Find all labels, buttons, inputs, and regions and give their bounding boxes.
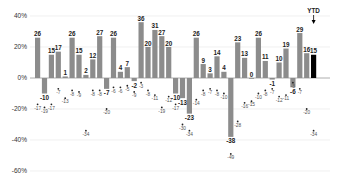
drop-value-label: -17	[48, 106, 55, 111]
bar	[97, 36, 102, 78]
bar	[152, 30, 157, 78]
bar	[304, 53, 309, 78]
bar-value-label: 10	[276, 55, 284, 62]
bar	[214, 56, 219, 78]
bar-value-label: -13	[178, 99, 188, 106]
drop-value-label: -8	[201, 92, 206, 97]
bar-value-label: -1	[269, 80, 275, 87]
bar-value-label: 1	[63, 69, 67, 76]
drop-value-label: -8	[146, 92, 151, 97]
bar	[35, 38, 40, 78]
bar-value-label: 26	[255, 30, 263, 37]
bar-value-label: -10	[40, 94, 50, 101]
drop-value-label: -10	[220, 95, 227, 100]
y-tick-label: 20%	[14, 43, 27, 50]
drop-value-label: -11	[152, 96, 159, 101]
bar	[145, 47, 150, 78]
bar	[194, 38, 199, 78]
bar-value-label: 14	[213, 49, 221, 56]
y-tick-label: -20%	[12, 105, 27, 112]
drop-value-label: -8	[91, 92, 96, 97]
bar-value-label: -7	[104, 89, 110, 96]
ytd-annotation-label: YTD	[307, 7, 320, 14]
bar	[208, 73, 213, 78]
bar	[83, 75, 88, 78]
ytd-bar	[311, 55, 316, 78]
bar-value-label: 0	[250, 71, 254, 78]
bar-value-label: 17	[55, 44, 63, 51]
bar	[111, 38, 116, 78]
y-tick-label: -40%	[12, 136, 27, 143]
bar-value-label: 11	[262, 53, 269, 60]
bar-value-label: 20	[144, 40, 152, 47]
drop-value-label: -9	[132, 93, 137, 98]
bar	[125, 67, 130, 78]
drop-value-label: -9	[77, 93, 82, 98]
bar	[187, 78, 192, 114]
bar-value-label: -23	[185, 114, 195, 121]
drop-value-label: -5	[125, 87, 130, 92]
drop-value-label: -34	[310, 132, 317, 137]
bar	[118, 72, 123, 78]
bar	[201, 64, 206, 78]
bar-value-label: 12	[89, 52, 97, 59]
bar-value-label: 23	[234, 35, 242, 42]
y-tick-label: 40%	[14, 12, 27, 19]
bar-value-label: 3	[208, 66, 212, 73]
drop-value-label: -34	[186, 132, 193, 137]
y-tick-label: -60%	[12, 167, 27, 174]
bar-value-label: 26	[69, 30, 77, 37]
bar	[221, 72, 226, 78]
bar	[297, 33, 302, 78]
bar-value-label: 26	[34, 30, 42, 37]
bar-value-label: 9	[201, 57, 205, 64]
bar	[70, 38, 75, 78]
bar	[63, 76, 68, 78]
bar	[166, 47, 171, 78]
drop-value-label: -30	[179, 126, 186, 131]
bar-value-label: 13	[241, 50, 249, 57]
drop-value-label: -8	[215, 92, 220, 97]
bar	[256, 38, 261, 78]
bar-value-label: 26	[193, 30, 201, 37]
bar	[173, 78, 178, 94]
bar-value-label: 4	[222, 64, 226, 71]
bar	[263, 61, 268, 78]
drop-value-label: -7	[270, 90, 275, 95]
drop-value-label: -10	[255, 95, 262, 100]
drop-value-label: -13	[62, 99, 69, 104]
bar-value-label: 27	[96, 29, 104, 36]
drop-value-label: -6	[111, 89, 116, 94]
bar-value-label: 7	[126, 60, 130, 67]
bar-value-label: -2	[131, 82, 137, 89]
drop-value-label: -17	[172, 106, 179, 111]
drop-value-label: -28	[234, 123, 241, 128]
bar	[76, 55, 81, 78]
drop-value-label: -8	[70, 92, 75, 97]
bar-value-label: 4	[119, 64, 123, 71]
drop-value-label: -7	[208, 90, 213, 95]
drop-value-label: -3	[291, 84, 296, 89]
drop-value-label: -6	[118, 89, 123, 94]
bar-value-label: -38	[226, 137, 236, 144]
bar	[42, 78, 47, 94]
ytd-arrowhead-icon	[312, 20, 316, 24]
bar-value-label: 29	[296, 26, 304, 33]
bar-value-label: 26	[110, 30, 118, 37]
drop-value-label: -8	[98, 92, 103, 97]
bar	[90, 59, 95, 78]
bar	[180, 78, 185, 98]
bar	[283, 49, 288, 78]
drop-value-label: -7	[298, 90, 303, 95]
drop-value-label: -7	[56, 90, 61, 95]
bar-value-label: 20	[165, 40, 173, 47]
drop-value-label: -8	[263, 92, 268, 97]
drop-value-label: -19	[158, 109, 165, 114]
bar-value-label: 15	[310, 47, 318, 54]
bar	[104, 78, 109, 89]
drop-value-label: -11	[283, 96, 290, 101]
y-tick-label: 0%	[18, 74, 28, 81]
drop-value-label: -15	[248, 102, 255, 107]
bar	[56, 52, 61, 78]
bar	[277, 63, 282, 79]
